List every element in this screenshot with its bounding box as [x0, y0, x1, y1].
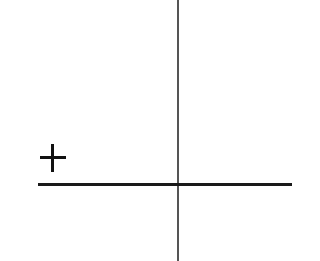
vertical-axis-line — [177, 0, 179, 261]
plus-vertical-stroke — [51, 144, 54, 172]
horizontal-axis-line — [38, 183, 292, 186]
plus-sign-icon: + — [40, 144, 66, 172]
plus-sign-label: + — [40, 144, 41, 145]
